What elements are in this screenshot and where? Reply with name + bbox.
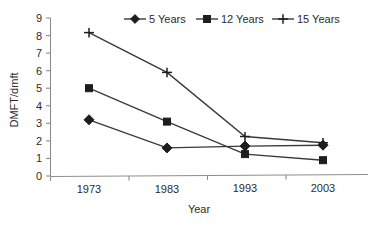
series-12-years-markers (86, 85, 327, 164)
line-chart: 0 1 2 3 4 5 6 7 8 9 1973 1983 1993 2003 … (0, 0, 380, 228)
x-tick-label-2003: 2003 (311, 182, 335, 194)
y-tick-label-0: 0 (36, 170, 42, 182)
series-15-years-markers (84, 28, 328, 147)
y-tick-label-4: 4 (36, 100, 42, 112)
x-tick-label-1983: 1983 (155, 183, 179, 195)
y-tick-label-2: 2 (36, 135, 42, 147)
x-axis-line (51, 175, 369, 177)
legend-item-5-years[interactable]: 5 Years (124, 13, 186, 25)
chart-legend: 5 Years 12 Years 15 Years (124, 13, 340, 25)
legend-label-5-years: 5 Years (149, 13, 186, 25)
y-tick-label-5: 5 (36, 82, 42, 94)
series-15-years (84, 28, 328, 147)
chart-figure: 0 1 2 3 4 5 6 7 8 9 1973 1983 1993 2003 … (0, 0, 380, 228)
legend-label-15-years: 15 Years (297, 13, 340, 25)
y-tick-label-3: 3 (36, 117, 42, 129)
diamond-marker-icon (131, 15, 140, 24)
y-tick-label-8: 8 (36, 30, 42, 42)
legend-label-12-years: 12 Years (221, 13, 264, 25)
series-15-years-line (89, 33, 323, 143)
x-axis-title: Year (188, 203, 211, 215)
series-5-years-line (89, 120, 323, 148)
y-tick-label-7: 7 (36, 47, 42, 59)
x-tick-label-1973: 1973 (77, 183, 101, 195)
series-12-years (86, 85, 327, 164)
y-axis-ticks (46, 18, 51, 176)
y-axis-title: DMFT/dmft (8, 73, 20, 128)
x-tick-label-1993: 1993 (233, 182, 257, 194)
cross-marker-icon (278, 14, 288, 23)
legend-item-12-years[interactable]: 12 Years (196, 13, 264, 25)
y-tick-label-1: 1 (36, 152, 42, 164)
series-12-years-line (89, 88, 323, 160)
y-tick-label-6: 6 (36, 65, 42, 77)
legend-item-15-years[interactable]: 15 Years (272, 13, 340, 25)
square-marker-icon (204, 16, 211, 23)
y-tick-label-9: 9 (36, 12, 42, 24)
series-5-years (84, 115, 328, 153)
